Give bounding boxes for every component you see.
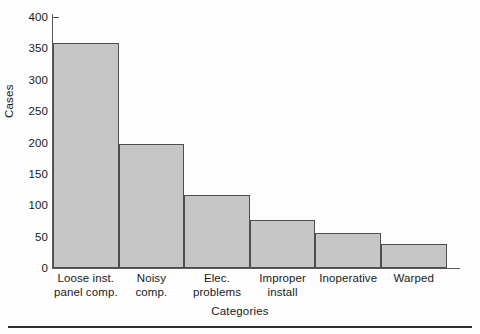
x-axis-title: Categories (0, 305, 480, 317)
x-axis-category-label: Elec.problems (184, 272, 250, 299)
y-axis-tick-label: 400 (29, 11, 49, 23)
y-axis-tick-label: 350 (29, 42, 49, 54)
x-axis-category-label: Noisycomp. (119, 272, 185, 299)
x-axis-category-label: Loose inst.panel comp. (53, 272, 119, 299)
bar[interactable] (315, 233, 381, 268)
y-axis-tick-label: 100 (29, 199, 49, 211)
x-axis-category-label-line: Loose inst. (53, 272, 119, 286)
x-axis-category-label-line: Elec. (184, 272, 250, 286)
x-axis-category-label-line: Inoperative (315, 272, 381, 286)
y-axis-tick-label: 300 (29, 74, 49, 86)
y-axis-tick (53, 268, 59, 269)
y-axis-tick-label: 0 (42, 262, 49, 274)
x-axis-category-label-line: install (250, 286, 316, 300)
x-axis-category-label: Inoperative (315, 272, 381, 286)
plot-area (53, 17, 460, 268)
footer-rule (8, 326, 472, 328)
y-axis-tick-label: 50 (35, 231, 48, 243)
x-axis-category-label: Improperinstall (250, 272, 316, 299)
y-axis-title: Cases (3, 84, 15, 118)
bar[interactable] (119, 144, 185, 268)
x-axis-category-label-line: comp. (119, 286, 185, 300)
bar[interactable] (381, 244, 447, 268)
pareto-bar-chart-figure: 050100150200250300350400 Loose inst.pane… (0, 0, 480, 334)
x-axis-category-label-line: Warped (381, 272, 447, 286)
y-axis-tick-label: 200 (29, 137, 49, 149)
bar[interactable] (184, 195, 250, 268)
bar[interactable] (53, 43, 119, 268)
y-axis-tick-label: 250 (29, 105, 49, 117)
bar[interactable] (250, 220, 316, 268)
x-axis-category-label: Warped (381, 272, 447, 286)
x-axis-category-label-line: Improper (250, 272, 316, 286)
y-axis-tick-label: 150 (29, 168, 49, 180)
x-axis-category-label-line: panel comp. (53, 286, 119, 300)
x-axis-category-label-line: Noisy (119, 272, 185, 286)
x-axis-category-label-line: problems (184, 286, 250, 300)
